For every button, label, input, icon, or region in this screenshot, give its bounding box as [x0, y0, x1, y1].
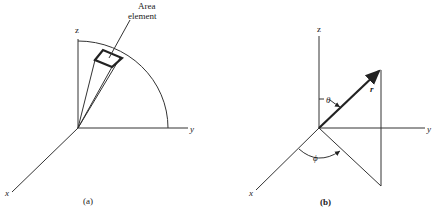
panel-a: Area element z y x (a): [4, 1, 194, 206]
y-label-b: y: [426, 124, 431, 134]
theta-label: θ: [326, 95, 331, 105]
annotation-leader: [109, 20, 130, 58]
annotation-element: element: [128, 11, 157, 21]
x-label-b: x: [248, 188, 253, 198]
z-label-b: z: [317, 24, 321, 34]
spherical-coordinates-figure: Area element z y x (a) z y x θ r ϕ (b): [0, 0, 440, 217]
annotation-area: Area: [138, 1, 156, 11]
cone-line: [78, 58, 120, 128]
panel-b: z y x θ r ϕ (b): [248, 24, 431, 207]
phi-label: ϕ: [313, 153, 318, 163]
caption-b: (b): [320, 197, 331, 207]
y-label-a: y: [189, 124, 194, 134]
x-axis-b: [256, 128, 319, 190]
theta-arc: [330, 100, 340, 107]
x-axis-a: [12, 128, 78, 192]
r-label: r: [370, 84, 374, 94]
z-label-a: z: [75, 25, 79, 35]
area-element: [95, 50, 122, 67]
cone-line: [78, 60, 95, 128]
sphere-arc: [78, 41, 168, 128]
phi-arc: [299, 149, 340, 158]
x-label-a: x: [4, 188, 9, 198]
caption-a: (a): [83, 196, 93, 206]
